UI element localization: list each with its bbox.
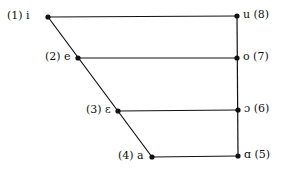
vowel-label-3: (3) ɛ [86,104,111,116]
vowel-label-6: ɔ (6) [244,103,269,115]
vowel-points [45,13,240,159]
vowel-chart [0,0,287,171]
vowel-label-2: (2) e [45,51,71,63]
vowel-label-8: u (8) [243,9,269,21]
vowel-label-7: o (7) [243,51,269,63]
chart-lines [48,16,238,157]
vowel-label-5: ɑ (5) [244,149,270,161]
vowel-label-4: (4) a [118,150,144,162]
vowel-label-1: (1) i [7,10,30,22]
